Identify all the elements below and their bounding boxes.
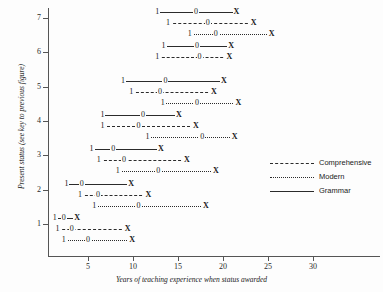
x-tick-label-25: 25 (258, 262, 278, 271)
point-marker-lower: 1 (120, 76, 126, 86)
point-marker-upper: X (234, 98, 242, 108)
point-marker-median: 0 (199, 132, 205, 142)
x-tick-label-30: 30 (303, 262, 323, 271)
point-marker-median: 0 (95, 190, 101, 200)
x-tick-25 (268, 256, 269, 261)
point-marker-upper: X (73, 213, 81, 223)
point-marker-upper: X (227, 41, 235, 51)
point-marker-upper: X (225, 52, 233, 62)
chart-legend: ComprehensiveModernGrammar (270, 156, 376, 198)
legend-item-comprehensive: Comprehensive (270, 156, 376, 170)
x-tick-20 (223, 256, 224, 261)
point-marker-lower: 1 (52, 213, 58, 223)
series-row: 10X (0, 98, 383, 108)
point-marker-lower: 1 (77, 190, 83, 200)
point-marker-lower: 1 (115, 166, 121, 176)
series-row: 10X (0, 110, 383, 120)
range-line-modern (64, 240, 132, 241)
point-marker-upper: X (212, 166, 220, 176)
range-line-grammar (92, 149, 160, 150)
legend-swatch-comprehensive (270, 163, 314, 164)
x-tick-label-20: 20 (213, 262, 233, 271)
x-tick-10 (133, 256, 134, 261)
point-marker-lower: 1 (160, 98, 166, 108)
range-line-comprehensive (99, 160, 186, 161)
range-line-grammar (123, 81, 223, 82)
point-marker-upper: X (233, 7, 241, 17)
point-marker-median: 0 (205, 18, 211, 28)
point-marker-median: 0 (110, 144, 116, 154)
point-marker-upper: X (183, 155, 191, 165)
series-row: 10X (0, 76, 383, 86)
point-marker-median: 0 (85, 235, 91, 245)
point-marker-lower: 1 (128, 87, 134, 97)
point-marker-lower: 1 (161, 41, 167, 51)
point-marker-lower: 1 (91, 201, 97, 211)
point-marker-median: 0 (194, 98, 200, 108)
point-marker-upper: X (231, 132, 239, 142)
y-axis-title: Present status (see key to previous figu… (17, 42, 26, 212)
point-marker-upper: X (128, 235, 136, 245)
legend-label-comprehensive: Comprehensive (319, 156, 372, 170)
x-axis-title: Years of teaching experience when status… (0, 275, 383, 284)
legend-swatch-modern (270, 177, 314, 178)
point-marker-median: 0 (140, 110, 146, 120)
x-tick-5 (88, 256, 89, 261)
x-axis-line (48, 256, 380, 257)
point-marker-upper: X (210, 87, 218, 97)
point-marker-median: 0 (197, 52, 203, 62)
series-row: 10X (0, 121, 383, 131)
series-row: 10X (0, 201, 383, 211)
range-line-modern (118, 171, 215, 172)
point-marker-median: 0 (213, 29, 219, 39)
point-marker-upper: X (220, 76, 228, 86)
point-marker-lower: 1 (96, 155, 102, 165)
point-marker-median: 0 (121, 155, 127, 165)
point-marker-upper: X (192, 121, 200, 131)
point-marker-lower: 1 (154, 52, 160, 62)
point-marker-upper: X (250, 18, 258, 28)
series-row: 10X (0, 235, 383, 245)
legend-item-grammar: Grammar (270, 184, 376, 198)
range-line-comprehensive (102, 126, 195, 127)
range-line-comprehensive (80, 195, 148, 196)
range-line-modern (147, 137, 233, 138)
point-marker-lower: 1 (165, 18, 171, 28)
point-marker-upper: X (175, 110, 183, 120)
legend-label-modern: Modern (319, 170, 344, 184)
series-row: 10X (0, 144, 383, 154)
point-marker-median: 0 (69, 224, 75, 234)
point-marker-lower: 1 (63, 179, 69, 189)
point-marker-median: 0 (61, 213, 67, 223)
range-line-modern (94, 206, 205, 207)
point-marker-upper: X (144, 190, 152, 200)
legend-item-modern: Modern (270, 170, 376, 184)
series-row: 10X (0, 213, 383, 223)
point-marker-lower: 1 (154, 7, 160, 17)
point-marker-median: 0 (157, 87, 163, 97)
x-tick-label-10: 10 (123, 262, 143, 271)
range-line-grammar (66, 184, 130, 185)
point-marker-lower: 1 (99, 110, 105, 120)
range-line-modern (190, 34, 271, 35)
point-marker-upper: X (127, 179, 135, 189)
point-marker-median: 0 (194, 41, 200, 51)
series-row: 10X (0, 18, 383, 28)
x-tick-30 (313, 256, 314, 261)
range-line-modern (163, 103, 238, 104)
point-marker-lower: 1 (61, 235, 67, 245)
series-row: 10X (0, 52, 383, 62)
series-row: 10X (0, 7, 383, 17)
x-tick-label-5: 5 (78, 262, 98, 271)
point-marker-upper: X (202, 201, 210, 211)
legend-swatch-grammar (270, 191, 314, 192)
point-marker-median: 0 (135, 121, 141, 131)
point-marker-upper: X (157, 144, 165, 154)
range-line-comprehensive (131, 92, 213, 93)
series-row: 10X (0, 87, 383, 97)
point-marker-lower: 1 (144, 132, 150, 142)
point-marker-median: 0 (135, 201, 141, 211)
point-marker-upper: X (124, 224, 132, 234)
point-marker-lower: 1 (54, 224, 60, 234)
series-row: 10X (0, 29, 383, 39)
